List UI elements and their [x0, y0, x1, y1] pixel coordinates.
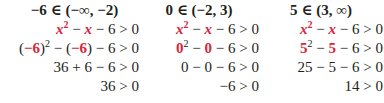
simplified-row: 36 + 6 − 6 > 0 [54, 58, 139, 76]
interval-header: 0 ∈ (−2, 3) [139, 1, 259, 19]
result-row: −6 > 0 [220, 77, 259, 95]
substitution-row: (−6)2 − (−6) − 6 > 0 [19, 39, 139, 57]
inequality-row: x2 − x − 6 > 0 [176, 20, 259, 38]
interval-header: 5 ∈ (3, ∞) [259, 1, 383, 19]
interval-header: −6 ∈ (−∞, −2) [10, 1, 139, 19]
result-row: 36 > 0 [101, 77, 139, 95]
simplified-row: 25 − 5 − 6 > 0 [298, 58, 383, 76]
result-row: 14 > 0 [345, 77, 383, 95]
simplified-row: 0 − 0 − 6 > 0 [181, 58, 259, 76]
substitution-row: 02 − 0 − 6 > 0 [176, 39, 259, 57]
substitution-row: 52 − 5 − 6 > 0 [300, 39, 383, 57]
inequality-row: x2 − x − 6 > 0 [56, 20, 139, 38]
inequality-row: x2 − x − 6 > 0 [300, 20, 383, 38]
